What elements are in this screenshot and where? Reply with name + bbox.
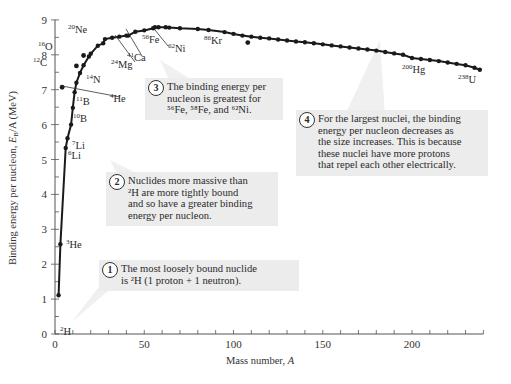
nuclide-label-56Fe: 56Fe (142, 33, 160, 45)
callout-3-line-3: ⁵⁶Fe, ⁵⁸Fe, and ⁶²Ni. (167, 104, 277, 116)
svg-text:150: 150 (315, 338, 332, 350)
nuclide-label-3He: 3He (66, 238, 82, 250)
callout-2-line-3: and so have a greater binding (128, 198, 272, 210)
nuclide-label-4He: 4He (110, 92, 126, 104)
callout-4-line-3: the size increases. This is because (318, 136, 482, 148)
callout-4-line-1: For the largest nuclei, the binding (318, 113, 482, 125)
callout-number-3: 3 (148, 80, 164, 96)
nuclide-label-12C: 12C (33, 56, 47, 68)
callout-3-line-2: nucleon is greatest for (167, 93, 277, 105)
nuclide-label-20Ne: 20Ne (68, 23, 88, 35)
nuclide-label-238U: 238U (458, 73, 477, 85)
callout-2-line-1: Nuclides more massive than (128, 175, 272, 187)
x-axis-title: Mass number, A (226, 355, 295, 366)
callout-1-line-1: The most loosely bound nuclide (121, 263, 293, 275)
callout-2-line-4: energy per nucleon. (128, 210, 272, 222)
svg-text:9: 9 (42, 14, 48, 26)
svg-text:2: 2 (42, 258, 48, 270)
callout-4-line-5: that repel each other electrically. (318, 159, 482, 171)
nuclide-label-16O: 16O (38, 40, 53, 52)
svg-text:4: 4 (42, 188, 48, 200)
nuclide-label-2H: 2H (60, 325, 72, 337)
svg-text:7: 7 (42, 84, 48, 96)
svg-text:6: 6 (42, 119, 48, 131)
callout-4-line-2: energy per nucleon decreases as (318, 125, 482, 137)
callout-number-2: 2 (109, 174, 125, 190)
callout-4: 4 For the largest nuclei, the binding en… (296, 110, 488, 176)
nuclide-label-10B: 10B (73, 112, 87, 124)
svg-text:0: 0 (52, 338, 58, 350)
callout-4-line-4: these nuclei have more protons (318, 148, 482, 160)
svg-text:1: 1 (42, 293, 48, 305)
nuclide-label-14N: 14N (86, 73, 101, 85)
callout-2: 2 Nuclides more massive than ²H are more… (106, 172, 278, 226)
svg-text:200: 200 (404, 338, 421, 350)
nuclide-label-86Kr: 86Kr (204, 34, 223, 46)
nuclide-label-62Ni: 62Ni (168, 42, 186, 54)
y-axis-title: Binding energy per nucleon, EB/A (MeV) (7, 90, 20, 265)
svg-text:3: 3 (42, 223, 48, 235)
nuclide-label-11B: 11B (76, 95, 90, 107)
callout-3-line-1: The binding energy per (167, 81, 277, 93)
callout-number-4: 4 (299, 112, 315, 128)
callout-3: 3 The binding energy per nucleon is grea… (145, 78, 283, 120)
callout-1-line-2: is ²H (1 proton + 1 neutron). (121, 275, 293, 287)
svg-text:100: 100 (225, 338, 242, 350)
callout-number-1: 1 (102, 262, 118, 278)
nuclide-label-200Hg: 200Hg (402, 63, 426, 75)
callout-2-line-2: ²H are more tightly bound (128, 187, 272, 199)
svg-text:50: 50 (139, 338, 151, 350)
svg-text:5: 5 (42, 154, 48, 166)
svg-text:0: 0 (42, 328, 48, 340)
nuclide-label-24Mg: 24Mg (111, 58, 133, 70)
callout-1: 1 The most loosely bound nuclide is ²H (… (99, 260, 299, 291)
